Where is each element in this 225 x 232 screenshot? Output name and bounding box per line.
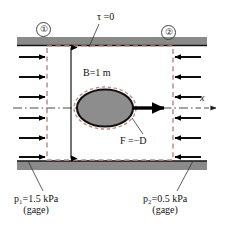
fluid-mechanics-control-volume-figure: τ =0 ① ② B=1 m F =−D x p₁=1.5 kPa (gage)… — [0, 0, 225, 232]
x-axis-label: x — [200, 92, 204, 103]
outlet-pressure-arrows — [175, 57, 201, 157]
inlet-pressure-reference: (gage) — [14, 204, 58, 215]
inlet-pressure-arrows — [19, 57, 45, 157]
duct-width-label: B=1 m — [83, 67, 111, 78]
outlet-pressure-reference: (gage) — [143, 204, 187, 215]
station-2-marker: ② — [161, 25, 176, 40]
station-1-marker: ① — [36, 22, 51, 37]
immersed-body — [74, 87, 136, 129]
inlet-pressure-value: p₁=1.5 kPa — [14, 193, 58, 204]
inlet-pressure-label: p₁=1.5 kPa (gage) — [14, 193, 58, 215]
duct-top-wall — [17, 37, 207, 46]
duct-bottom-wall — [17, 161, 207, 170]
drag-force-label: F =−D — [120, 135, 147, 146]
drag-force-leader — [132, 118, 143, 134]
wall-shear-stress-label: τ =0 — [97, 11, 114, 22]
outlet-pressure-value: p₂=0.5 kPa — [143, 193, 187, 204]
outlet-pressure-label: p₂=0.5 kPa (gage) — [143, 193, 187, 215]
